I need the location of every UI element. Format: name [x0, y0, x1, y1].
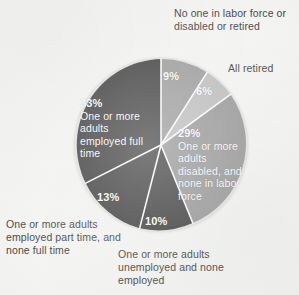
slice-percent-label-9: 9% — [163, 70, 193, 83]
slice-label-disabled-none-labor: 29% One or more adults disabled, and non… — [178, 127, 246, 202]
slice-percent-9: 9% — [163, 70, 179, 82]
slice-percent-10: 10% — [145, 215, 167, 227]
label-no-one-in-labor-force: No one in labor force or disabled or ret… — [174, 7, 292, 33]
slice-percent-29: 29% — [178, 127, 246, 140]
slice-text-full-time: One or more adults employed full time — [80, 110, 143, 160]
slice-percent-33: 33% — [80, 97, 144, 110]
slice-percent-label-13: 13% — [97, 191, 131, 204]
slice-text-disabled: One or more adults disabled, and none in… — [178, 140, 242, 202]
pie-chart-figure: No one in labor force or disabled or ret… — [0, 0, 299, 295]
slice-label-full-time: 33% One or more adults employed full tim… — [80, 97, 144, 160]
label-unemployed-none-employed: One or more adults unemployed and none e… — [118, 248, 268, 287]
slice-percent-6: 6% — [196, 85, 212, 97]
label-part-time-none-full-time: One or more adults employed part time, a… — [6, 218, 122, 257]
slice-percent-label-6: 6% — [196, 85, 224, 98]
slice-percent-label-10: 10% — [145, 215, 179, 228]
label-all-retired: All retired — [228, 62, 298, 75]
slice-percent-13: 13% — [97, 191, 119, 203]
